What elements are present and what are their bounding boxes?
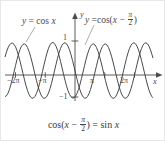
x-tick-label-neg-2pi: −2π: [7, 77, 20, 85]
y-axis-arrowhead: [72, 13, 78, 20]
identity-close-paren: ): [86, 119, 89, 130]
math-figure-panel: y = cos x y =cos(x − π2) −2π −π π 2π 1 −…: [0, 0, 165, 141]
identity-equals: =: [92, 119, 98, 130]
y-tick-label-one: 1: [63, 34, 67, 42]
shifted-label-lhs: y: [85, 15, 89, 25]
leader-line-shifted: [85, 25, 94, 45]
x-tick-label-pi: π: [90, 77, 94, 85]
cos-label-lhs: y: [22, 16, 26, 26]
cos-label-equals: =: [29, 16, 34, 26]
trig-identity-caption: cos(x − π2) = sin x: [1, 116, 165, 132]
identity-argument: x: [65, 119, 69, 130]
curve-label-cos-x: y = cos x: [22, 17, 56, 27]
shifted-label-fraction-denominator: 2: [128, 20, 134, 27]
cos-label-argument: x: [51, 16, 55, 26]
cos-label-function: cos: [36, 16, 49, 26]
y-axis-label: y: [80, 10, 84, 19]
shifted-label-argument: x: [113, 15, 117, 25]
x-tick-label-2pi: 2π: [120, 77, 128, 85]
identity-rhs-function: sin: [100, 119, 112, 130]
x-tick-label-neg-pi: −π: [38, 77, 47, 85]
x-axis-label: x: [153, 77, 157, 86]
identity-function: cos(: [48, 119, 65, 130]
shifted-label-function: cos(: [97, 15, 113, 25]
shifted-label-minus: −: [119, 15, 124, 25]
shifted-label-fraction: π2: [128, 12, 134, 28]
y-tick-label-neg-one: −1: [59, 93, 68, 101]
leader-line-cos: [26, 27, 35, 42]
identity-minus: −: [72, 119, 78, 130]
identity-rhs-argument: x: [115, 119, 119, 130]
shifted-label-close-paren: ): [134, 15, 137, 25]
curve-label-cos-shifted: y =cos(x − π2): [85, 12, 137, 28]
